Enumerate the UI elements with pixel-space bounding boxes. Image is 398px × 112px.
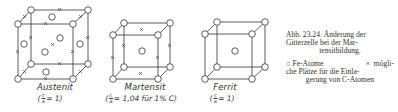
ratio-value: = 1): [46, 94, 62, 103]
ratio-open: (: [209, 94, 212, 103]
martensit-ratio: ( ca = 1,04 für 1% C): [105, 93, 177, 104]
austenit-ratio: ( ca = 1): [37, 93, 62, 104]
ferrit-label: Ferrit: [213, 82, 236, 92]
ratio-open: (: [37, 94, 40, 103]
ferrit-cube: [202, 19, 269, 83]
austenit-label: Austenit: [37, 82, 73, 92]
figure-caption: Abb. 23.24. Änderung der Gitterzelle bei…: [286, 31, 394, 55]
ratio-value: = 1,04 für 1% C): [114, 94, 177, 103]
ratio-fraction: ca: [213, 93, 217, 104]
ferrit-ratio: ( ca = 1): [209, 93, 234, 104]
legend-line-3: gerung von C-Atomen: [286, 76, 394, 84]
c-site-label: mögli-: [374, 59, 394, 68]
ratio-fraction: ca: [41, 93, 45, 104]
ratio-open: (: [105, 94, 108, 103]
c-site-icon: ×: [366, 59, 370, 68]
martensit-cube: [110, 20, 174, 83]
ratio-value: = 1): [218, 94, 234, 103]
caption-line-3: tensitbildung.: [286, 47, 394, 55]
martensit-label: Martensit: [124, 82, 165, 92]
figure-legend: ○ Fe-Atome × mögli- che Plätze für die E…: [286, 60, 394, 84]
austenit-cube: [15, 7, 92, 83]
ratio-fraction: ca: [109, 93, 113, 104]
